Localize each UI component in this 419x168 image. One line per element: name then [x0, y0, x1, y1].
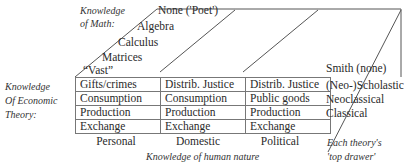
math-level-vast: “Vast” — [83, 63, 113, 77]
column-label-domestic: Domestic — [157, 134, 239, 148]
column-label-personal: Personal — [75, 134, 157, 148]
grid-cell: Production — [76, 106, 161, 120]
math-level-algebra: Algebra — [137, 19, 174, 33]
theory-classical: Classical — [326, 106, 368, 120]
grid-row: Consumption Consumption Public goods — [76, 92, 331, 106]
math-level-matrices: Matrices — [102, 50, 142, 64]
grid-cell: Distrib. Justice — [161, 78, 246, 92]
grid-row: Production Production Production — [76, 106, 331, 120]
math-level-calculus: Calculus — [118, 35, 158, 49]
grid-cell: Consumption — [76, 92, 161, 106]
grid-cell: Exchange — [246, 120, 331, 134]
top-drawer-caption-1: Each theory's — [327, 136, 382, 149]
grid-row: Gifts/crimes Distrib. Justice Distrib. J… — [76, 78, 331, 92]
top-drawer-caption-2: 'top drawer' — [327, 150, 375, 163]
grid-cell: Exchange — [161, 120, 246, 134]
econ-axis-label-1: Knowledge — [5, 80, 50, 93]
human-nature-axis-label: Knowledge of human nature — [146, 150, 259, 163]
theory-neoclassical: Neoclassical — [326, 92, 384, 106]
math-level-none: None ('Poet') — [158, 3, 218, 17]
grid-row: Exchange Exchange Exchange — [76, 120, 331, 134]
math-axis-label-1: Knowledge — [80, 4, 125, 17]
econ-axis-label-2: Of Economic — [5, 94, 58, 107]
smith-label: Smith (none) — [326, 61, 386, 75]
column-label-political: Political — [239, 134, 321, 148]
grid-cell: Production — [246, 106, 331, 120]
econ-axis-label-3: Theory: — [5, 108, 37, 121]
grid-cell: Exchange — [76, 120, 161, 134]
math-axis-label-2: of Math: — [80, 17, 115, 30]
grid-cell: Public goods — [246, 92, 331, 106]
knowledge-grid: Gifts/crimes Distrib. Justice Distrib. J… — [75, 77, 331, 134]
grid-cell: Consumption — [161, 92, 246, 106]
grid-cell: Distrib. Justice — [246, 78, 331, 92]
theory-scholastic: (Neo-)Scholastic — [326, 78, 404, 92]
grid-cell: Production — [161, 106, 246, 120]
grid-cell: Gifts/crimes — [76, 78, 161, 92]
